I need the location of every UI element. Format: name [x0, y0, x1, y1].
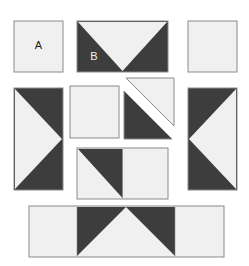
plain-light-square-center — [70, 86, 119, 138]
geometric-piece-layout: A B — [0, 0, 249, 266]
piece-right-tall[interactable] — [188, 88, 237, 190]
piece-b-double-triangle[interactable]: B — [77, 21, 168, 72]
piece-label-a: A — [35, 39, 43, 51]
piece-top-right-square[interactable] — [188, 21, 237, 72]
piece-a-square[interactable]: A — [14, 21, 63, 72]
figure-canvas: A B — [0, 0, 249, 266]
piece-left-tall[interactable] — [14, 88, 63, 190]
piece-center-lower-double[interactable] — [77, 148, 168, 199]
piece-center-square[interactable] — [70, 86, 119, 138]
piece-label-b: B — [90, 50, 97, 62]
piece-bottom-wide[interactable] — [29, 206, 224, 257]
plain-light-square-top-right — [188, 21, 237, 72]
